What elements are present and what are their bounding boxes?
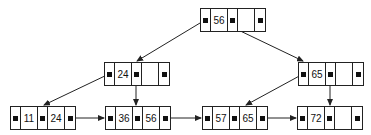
edge-root-to-internal-left <box>137 20 205 61</box>
key-cell: 56 <box>143 107 160 129</box>
key-cell: 57 <box>213 107 230 129</box>
key-cell: 56 <box>211 9 228 31</box>
key-cell <box>336 63 353 85</box>
node-root: 56 <box>200 8 266 32</box>
pointer-dot-icon <box>327 116 332 121</box>
pointer-dot-icon <box>328 72 333 77</box>
pointer-dot-icon <box>163 116 168 121</box>
node-leaf-3: 57 65 <box>202 106 268 130</box>
pointer-cell <box>257 107 267 129</box>
node-leaf-2: 36 56 <box>105 106 171 130</box>
node-leaf-4: 72 <box>297 106 363 130</box>
pointer-dot-icon <box>260 116 265 121</box>
pointer-dot-icon <box>203 18 208 23</box>
pointer-dot-icon <box>232 116 237 121</box>
node-internal-left: 24 <box>104 62 170 86</box>
pointer-cell <box>11 107 21 129</box>
pointer-cell <box>106 107 116 129</box>
pointer-cell <box>159 63 169 85</box>
pointer-dot-icon <box>40 116 45 121</box>
edge-root-to-internal-right <box>232 27 303 61</box>
pointer-dot-icon <box>68 116 73 121</box>
pointer-dot-icon <box>355 116 360 121</box>
pointer-cell <box>160 107 170 129</box>
pointer-cell <box>255 9 265 31</box>
pointer-cell <box>299 63 309 85</box>
key-cell: 36 <box>116 107 133 129</box>
pointer-dot-icon <box>356 72 361 77</box>
pointer-cell <box>352 107 362 129</box>
pointer-cell <box>230 107 240 129</box>
pointer-dot-icon <box>205 116 210 121</box>
pointer-dot-icon <box>134 72 139 77</box>
pointer-dot-icon <box>162 72 167 77</box>
pointer-cell <box>133 107 143 129</box>
pointer-cell <box>65 107 75 129</box>
pointer-cell <box>132 63 142 85</box>
pointer-cell <box>326 63 336 85</box>
pointer-cell <box>228 9 238 31</box>
key-cell <box>238 9 255 31</box>
pointer-dot-icon <box>107 72 112 77</box>
pointer-dot-icon <box>258 18 263 23</box>
key-cell: 24 <box>115 63 132 85</box>
key-cell: 65 <box>309 63 326 85</box>
node-leaf-1: 11 24 <box>10 106 76 130</box>
pointer-dot-icon <box>300 116 305 121</box>
key-cell: 65 <box>240 107 257 129</box>
pointer-dot-icon <box>13 116 18 121</box>
pointer-dot-icon <box>301 72 306 77</box>
pointer-cell <box>353 63 363 85</box>
key-cell <box>142 63 159 85</box>
pointer-cell <box>203 107 213 129</box>
pointer-dot-icon <box>135 116 140 121</box>
key-cell: 24 <box>48 107 65 129</box>
pointer-cell <box>105 63 115 85</box>
node-internal-right: 65 <box>298 62 364 86</box>
edge-internal-right-to-leaf-3 <box>246 74 303 105</box>
pointer-cell <box>201 9 211 31</box>
key-cell: 72 <box>308 107 325 129</box>
pointer-cell <box>325 107 335 129</box>
pointer-dot-icon <box>230 18 235 23</box>
pointer-dot-icon <box>108 116 113 121</box>
pointer-cell <box>298 107 308 129</box>
edge-internal-left-to-leaf-1 <box>44 74 109 105</box>
pointer-cell <box>38 107 48 129</box>
key-cell <box>335 107 352 129</box>
key-cell: 11 <box>21 107 38 129</box>
